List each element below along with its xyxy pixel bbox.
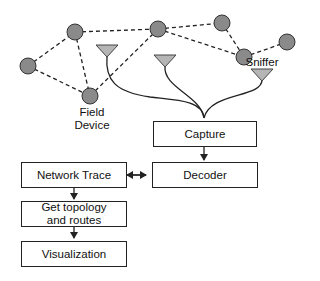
node-icon <box>279 34 295 50</box>
sniffer-label: Sniffer <box>240 56 284 69</box>
antenna-icon <box>251 69 273 81</box>
antenna-icon <box>96 45 118 57</box>
node-icon <box>214 15 230 31</box>
topology-box: Get topology and routes <box>21 201 127 227</box>
topology-line1: Get topology <box>41 201 106 214</box>
network-trace-box: Network Trace <box>21 162 127 188</box>
sniffer-wires <box>107 56 262 118</box>
decoder-box: Decoder <box>152 162 258 188</box>
field-device-label-line1: Field <box>72 106 112 119</box>
field-device-label: Field Device <box>72 106 112 132</box>
visualization-box: Visualization <box>21 241 127 267</box>
topology-line2: and routes <box>47 214 101 227</box>
node-icon <box>82 88 98 104</box>
node-icon <box>150 21 166 37</box>
field-device-label-line2: Device <box>72 119 112 132</box>
node-icon <box>67 24 83 40</box>
capture-box: Capture <box>153 121 257 147</box>
node-icon <box>20 58 36 74</box>
antenna-icon <box>154 55 176 67</box>
